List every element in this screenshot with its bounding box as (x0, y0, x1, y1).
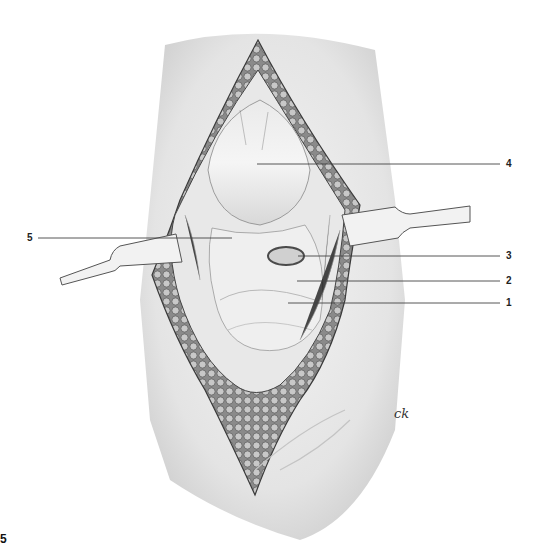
artist-signature: ck (394, 406, 409, 421)
illustration-drawing: ck (0, 0, 538, 544)
label-5: 5 (27, 233, 33, 243)
label-4: 4 (506, 159, 512, 169)
label-1: 1 (506, 298, 512, 308)
label-3: 3 (506, 251, 512, 261)
right-retractor (342, 206, 470, 246)
label-2: 2 (506, 276, 512, 286)
figure-number: 5 (0, 532, 7, 544)
surgical-illustration: ck 1 2 3 4 5 5 (0, 0, 538, 544)
